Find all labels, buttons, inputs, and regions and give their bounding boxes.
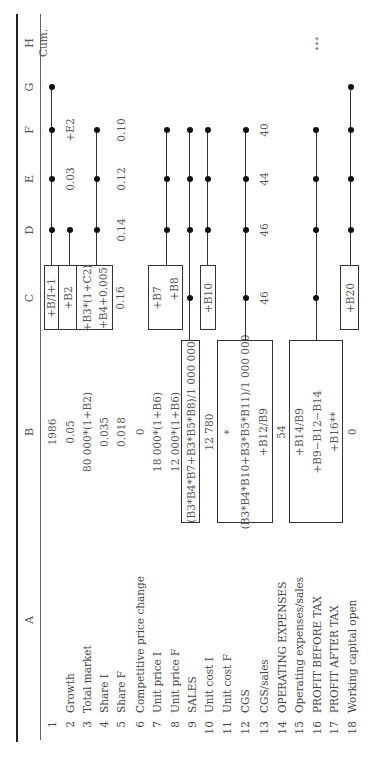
- row-number: 10: [203, 721, 215, 735]
- row-number: 9: [186, 721, 198, 735]
- row-number: 13: [258, 721, 270, 735]
- row-label-cgs-sales: CGS/sales: [258, 659, 270, 713]
- box-divider: [58, 265, 59, 330]
- header-rule: [40, 14, 41, 740]
- cell-c2: +B2: [62, 286, 74, 309]
- copy-dot: [94, 127, 100, 133]
- cell-c13: 46: [258, 291, 270, 304]
- cell-b3: 80 000*(1+B2): [81, 392, 93, 472]
- cell-d13: 46: [258, 223, 270, 236]
- column-header-e: E: [23, 175, 36, 183]
- cell-c7: +B7: [151, 286, 163, 309]
- cell-e2: 0.03: [64, 167, 76, 190]
- row-number: 17: [328, 721, 340, 735]
- cell-b7: 18 000*(1+B6): [151, 392, 163, 472]
- cell-c8: +B8: [168, 277, 180, 300]
- cell-c4: +B4+0.005: [97, 267, 109, 329]
- cell-b12: (B3*B4*B10+B3*B5*B11)/1 000 000: [239, 335, 251, 530]
- row-number: 15: [293, 721, 305, 735]
- spreadsheet-page: A B C D E F G H 1 2 3 4 5 6 7 8 9 10 11 …: [0, 0, 375, 769]
- copy-line-row7: [166, 130, 167, 265]
- cell-b10: 12 780: [203, 414, 215, 451]
- copy-line-row3-4: [96, 130, 97, 265]
- row-number: 14: [276, 721, 288, 735]
- copy-line-row2: [69, 230, 70, 265]
- cell-c5: 0.16: [114, 286, 126, 309]
- copy-dot: [187, 227, 193, 233]
- row-label-share-i: Share I: [98, 674, 110, 713]
- cell-d5: 0.14: [115, 218, 127, 241]
- row-number: 11: [221, 721, 233, 735]
- row-label-total-market: Total market: [81, 645, 93, 713]
- row-label-working-capital-open: Working capital open: [346, 600, 358, 713]
- copy-dot: [243, 295, 249, 301]
- row-number: 8: [169, 721, 181, 735]
- top-rule: [16, 14, 18, 742]
- cell-b11: *: [222, 429, 234, 434]
- row-number: 5: [115, 721, 127, 735]
- row-label-unit-cost-f: Unit cost F: [221, 654, 233, 713]
- cell-b18: 0: [346, 429, 358, 436]
- row-label-operating-expenses: OPERATING EXPENSES: [276, 582, 288, 713]
- row-label-cgs: CGS: [239, 689, 251, 713]
- cell-b1: 1986: [46, 419, 58, 446]
- copy-dot: [187, 295, 193, 301]
- row-label-operating-expenses-sales: Operating expenses/sales: [293, 577, 305, 713]
- cell-f5: 0.10: [115, 118, 127, 141]
- box-divider: [76, 265, 77, 330]
- row-number: 2: [64, 721, 76, 735]
- cell-e5: 0.12: [115, 167, 127, 190]
- copy-dot: [348, 127, 354, 133]
- row-label-share-f: Share F: [115, 671, 127, 713]
- row-label-sales: SALES: [186, 676, 198, 713]
- cell-e13: 44: [258, 172, 270, 185]
- cell-h17: ***: [314, 36, 323, 51]
- column-header-b: B: [23, 428, 36, 436]
- cell-b15: +B14/B9: [293, 408, 305, 456]
- row-label-competitive-price-change: Competitive price change: [134, 576, 146, 713]
- cell-h1: Cum.: [37, 29, 49, 57]
- copy-dot: [164, 176, 170, 182]
- copy-dot: [348, 84, 354, 90]
- copy-dot: [49, 84, 55, 90]
- row-label-profit-after-tax: PROFIT AFTER TAX: [328, 605, 340, 713]
- cell-c1: +B/I+1: [45, 278, 57, 318]
- copy-line-row10: [207, 130, 208, 265]
- copy-dot: [49, 227, 55, 233]
- column-header-a: A: [23, 616, 36, 624]
- copy-dot: [243, 176, 249, 182]
- cell-b17: +B16**: [328, 412, 340, 452]
- cell-c18: +B20: [344, 283, 356, 313]
- column-header-c: C: [23, 294, 36, 302]
- row-label-unit-cost-i: Unit cost I: [203, 657, 215, 713]
- copy-dot: [313, 295, 319, 301]
- copy-dot: [243, 227, 249, 233]
- row-number: 6: [134, 721, 146, 735]
- cell-b6: 0: [134, 429, 146, 436]
- cell-f13: 40: [258, 123, 270, 136]
- copy-dot: [164, 227, 170, 233]
- copy-dot: [348, 176, 354, 182]
- copy-dot: [49, 176, 55, 182]
- cell-b2: 0.05: [64, 420, 76, 443]
- copy-line-row12: [245, 130, 246, 340]
- row-number: 12: [239, 721, 251, 735]
- copy-line-row9: [189, 130, 190, 340]
- copy-dot: [205, 227, 211, 233]
- copy-dot: [313, 127, 319, 133]
- cell-b8: 12 000*(1+B6): [169, 392, 181, 472]
- column-header-d: D: [23, 226, 36, 235]
- copy-dot: [205, 176, 211, 182]
- copy-dot: [94, 176, 100, 182]
- cell-b16: +B9−B12−B14: [311, 391, 323, 474]
- copy-dot: [348, 227, 354, 233]
- row-label-profit-before-tax: PROFIT BEFORE TAX: [311, 596, 323, 713]
- cell-c3: +B3*(1+C2): [81, 265, 93, 332]
- cell-f2: +E2: [64, 118, 76, 141]
- copy-dot: [313, 176, 319, 182]
- copy-line-row16: [316, 130, 317, 340]
- row-number: 18: [346, 721, 358, 735]
- cell-b4: 0.035: [98, 417, 110, 447]
- row-number: 4: [98, 721, 110, 735]
- copy-dot: [313, 227, 319, 233]
